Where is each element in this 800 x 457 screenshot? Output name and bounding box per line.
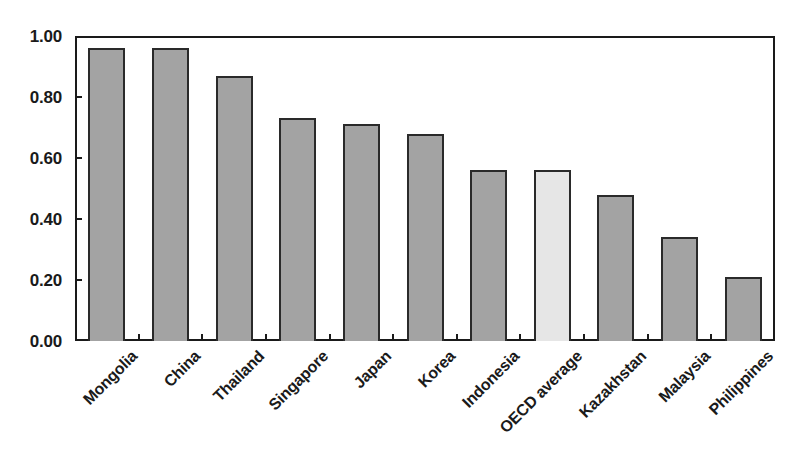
bar <box>216 76 253 341</box>
bar <box>279 118 316 341</box>
x-axis-tick-mark <box>138 334 140 341</box>
x-axis-tick-mark <box>583 334 585 341</box>
bars-layer <box>0 0 800 457</box>
bar <box>152 48 189 341</box>
x-axis-tick-mark <box>519 334 521 341</box>
x-axis-tick-mark <box>265 334 267 341</box>
x-axis-tick-mark <box>392 334 394 341</box>
x-axis-tick-mark <box>329 334 331 341</box>
bar <box>661 237 698 341</box>
bar <box>343 124 380 341</box>
bar <box>597 195 634 341</box>
bar <box>88 48 125 341</box>
bar <box>725 277 762 341</box>
bar <box>534 170 571 341</box>
bar-chart: 0.000.200.400.600.801.00 MongoliaChinaTh… <box>0 0 800 457</box>
bar <box>470 170 507 341</box>
x-axis-tick-mark <box>201 334 203 341</box>
bar <box>407 134 444 341</box>
x-axis-tick-mark <box>710 334 712 341</box>
x-axis-tick-mark <box>647 334 649 341</box>
x-axis-tick-mark <box>456 334 458 341</box>
